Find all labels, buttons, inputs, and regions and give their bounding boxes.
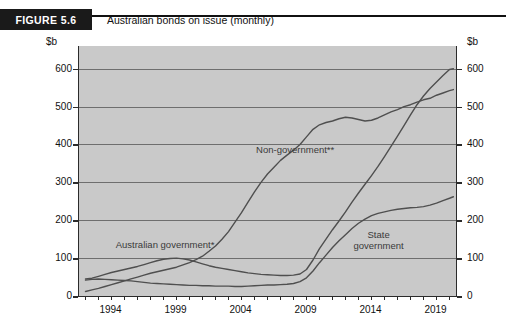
y-tick-mark-r-500 — [457, 107, 462, 109]
figure-header: FIGURE 5.6 Australian bonds on issue (mo… — [0, 9, 506, 30]
x-tick-mark-2007 — [280, 296, 282, 300]
x-tick-mark-2009 — [306, 296, 308, 300]
x-tick-label-2009: 2009 — [281, 304, 331, 315]
y-tick-mark-r-100 — [457, 258, 462, 260]
y-tick-label-l-200: 200 — [36, 214, 72, 225]
y-tick-label-r-200: 200 — [467, 214, 503, 225]
y-tick-label-r-500: 500 — [467, 101, 503, 112]
x-tick-mark-2003 — [228, 296, 230, 300]
y-tick-label-l-400: 400 — [36, 138, 72, 149]
series-label-state-government-line: government — [354, 240, 404, 251]
x-tick-mark-2013 — [358, 296, 360, 300]
x-tick-mark-2004 — [241, 296, 243, 300]
x-tick-label-2019: 2019 — [411, 304, 461, 315]
x-tick-mark-1999 — [176, 296, 178, 300]
y-tick-label-l-0: 0 — [36, 290, 72, 301]
y-tick-label-r-0: 0 — [467, 290, 503, 301]
y-tick-label-r-400: 400 — [467, 138, 503, 149]
y-tick-mark-r-400 — [457, 144, 462, 146]
x-tick-mark-2001 — [202, 296, 204, 300]
y-tick-mark-l-400 — [73, 144, 78, 146]
x-tick-mark-2010 — [319, 296, 321, 300]
series-line-non-government — [86, 90, 454, 292]
y-tick-label-r-100: 100 — [467, 252, 503, 263]
figure-container: FIGURE 5.6 Australian bonds on issue (mo… — [0, 0, 506, 322]
x-tick-mark-2018 — [423, 296, 425, 300]
y-tick-mark-l-100 — [73, 258, 78, 260]
chart-plot-wrapper: $b $b 0010010020020030030040040050050060… — [0, 34, 506, 322]
y-axis-unit-left: $b — [46, 36, 57, 47]
x-tick-label-1999: 1999 — [151, 304, 201, 315]
y-tick-label-l-500: 500 — [36, 101, 72, 112]
x-tick-mark-1998 — [163, 296, 165, 300]
x-tick-label-2014: 2014 — [346, 304, 396, 315]
series-label-state-government: Stategovernment — [354, 229, 404, 251]
series-label-non-government: Non-government** — [256, 144, 334, 155]
figure-number-badge: FIGURE 5.6 — [0, 9, 92, 30]
y-tick-label-r-300: 300 — [467, 176, 503, 187]
y-tick-label-l-100: 100 — [36, 252, 72, 263]
plot-area — [78, 46, 457, 297]
x-tick-mark-1995 — [124, 296, 126, 300]
x-tick-mark-1992 — [85, 296, 87, 300]
y-tick-mark-l-200 — [73, 220, 78, 222]
y-tick-label-r-600: 600 — [467, 63, 503, 74]
y-tick-label-l-600: 600 — [36, 63, 72, 74]
y-tick-mark-l-300 — [73, 182, 78, 184]
x-tick-mark-2002 — [215, 296, 217, 300]
series-lines — [79, 46, 456, 296]
x-tick-mark-2014 — [371, 296, 373, 300]
x-tick-mark-1994 — [111, 296, 113, 300]
x-tick-mark-2012 — [345, 296, 347, 300]
y-tick-mark-r-300 — [457, 182, 462, 184]
x-tick-label-1994: 1994 — [86, 304, 136, 315]
y-axis-unit-right: $b — [467, 36, 478, 47]
x-tick-mark-2017 — [410, 296, 412, 300]
x-tick-mark-1996 — [137, 296, 139, 300]
x-tick-mark-2016 — [397, 296, 399, 300]
y-tick-mark-r-600 — [457, 69, 462, 71]
y-tick-mark-r-200 — [457, 220, 462, 222]
y-tick-mark-l-600 — [73, 69, 78, 71]
x-tick-mark-2006 — [267, 296, 269, 300]
y-tick-mark-l-0 — [73, 296, 78, 298]
y-tick-mark-r-0 — [457, 296, 462, 298]
x-tick-mark-2000 — [189, 296, 191, 300]
series-label-state-government-line: State — [354, 229, 404, 240]
x-tick-mark-2011 — [332, 296, 334, 300]
x-tick-mark-2015 — [384, 296, 386, 300]
x-tick-mark-2019 — [436, 296, 438, 300]
x-tick-mark-1993 — [98, 296, 100, 300]
figure-title: Australian bonds on issue (monthly) — [107, 9, 274, 30]
x-tick-mark-1997 — [150, 296, 152, 300]
x-tick-mark-2020 — [449, 296, 451, 300]
y-tick-mark-l-500 — [73, 107, 78, 109]
y-tick-label-l-300: 300 — [36, 176, 72, 187]
x-tick-mark-2008 — [293, 296, 295, 300]
series-label-australian-government: Australian government* — [116, 239, 215, 250]
x-tick-label-2004: 2004 — [216, 304, 266, 315]
x-tick-mark-2005 — [254, 296, 256, 300]
